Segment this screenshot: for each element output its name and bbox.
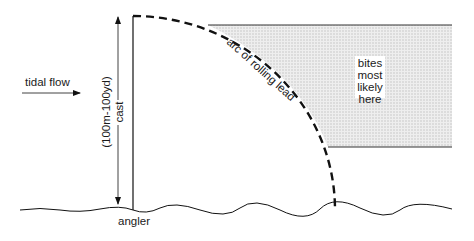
fishing-cast-diagram: tidal flow (100m-100yd) cast arc of roll… bbox=[0, 0, 474, 241]
bite-zone bbox=[208, 25, 452, 147]
cast-label: (100m-100yd) cast bbox=[100, 76, 125, 148]
svg-text:bites: bites bbox=[358, 57, 383, 69]
svg-text:cast: cast bbox=[113, 101, 125, 123]
tidal-flow-label: tidal flow bbox=[25, 76, 70, 88]
svg-text:(100m-100yd): (100m-100yd) bbox=[100, 76, 112, 148]
shoreline bbox=[20, 202, 452, 217]
svg-text:here: here bbox=[358, 93, 381, 105]
svg-text:likely: likely bbox=[357, 81, 383, 93]
bites-label: bites most likely here bbox=[357, 57, 383, 105]
svg-text:most: most bbox=[358, 69, 384, 81]
angler-label: angler bbox=[118, 215, 150, 227]
